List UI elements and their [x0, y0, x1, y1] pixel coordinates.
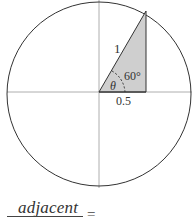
angle-value-label: 60°	[124, 69, 141, 83]
adjacent-length-label: 0.5	[116, 94, 131, 108]
fraction-bar	[7, 216, 83, 217]
formula-numerator: adjacent	[18, 198, 78, 218]
equals-sign: =	[87, 206, 95, 221]
hypotenuse-label: 1	[114, 41, 121, 56]
unit-circle-diagram: 1 60° θ 0.5	[0, 0, 196, 221]
theta-label: θ	[110, 79, 116, 93]
